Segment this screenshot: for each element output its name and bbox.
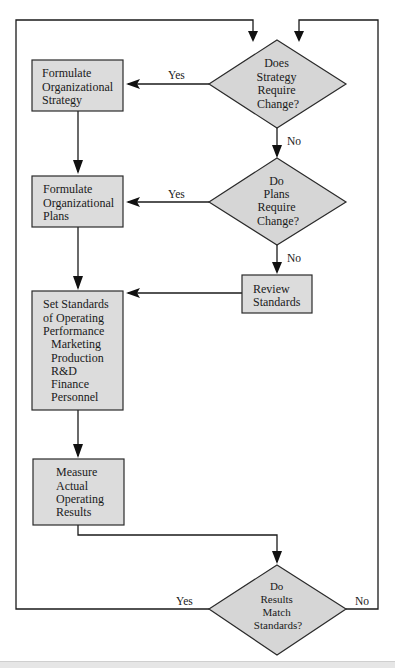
plans-to-standards-connector (73, 227, 83, 290)
plans-yes-label: Yes (168, 188, 185, 200)
plans-decision-diamond[interactable]: Do Plans Require Change? (209, 158, 346, 245)
results-decision-diamond[interactable]: Do Results Match Standards? (209, 565, 346, 655)
arrowhead-icon (272, 551, 282, 564)
box-text-line: Operating (56, 492, 104, 506)
diamond-text-line: Does (264, 56, 289, 70)
box-text-line: Organizational (42, 80, 114, 94)
page-bottom-divider (0, 661, 395, 668)
results-yes-label: Yes (176, 595, 193, 607)
box-text-line: Production (51, 351, 104, 365)
diamond-text-line: Change? (257, 214, 299, 228)
diamond-text-line: Standards? (254, 619, 302, 631)
strategy-yes-label: Yes (168, 69, 185, 81)
strategy-no-connector: No (272, 128, 301, 158)
arrowhead-icon (272, 262, 282, 274)
diamond-text-line: Change? (257, 97, 299, 111)
arrowhead-icon (294, 31, 304, 42)
diamond-text-line: Require (258, 83, 296, 97)
formulate-plans-box[interactable]: Formulate Organizational Plans (32, 176, 123, 227)
diamond-text-line: Do (270, 580, 284, 592)
box-text-line: Set Standards (43, 297, 109, 311)
set-standards-box[interactable]: Set Standards of Operating Performance M… (32, 291, 123, 410)
box-text-line: Formulate (43, 182, 92, 196)
diamond-text-line: Results (260, 593, 292, 605)
plans-yes-connector: Yes (126, 188, 209, 207)
box-text-line: Review (253, 282, 290, 296)
arrowhead-icon (272, 145, 282, 158)
arrowhead-icon (73, 444, 83, 458)
strategy-to-plans-connector (73, 111, 83, 174)
plans-no-connector: No (272, 245, 301, 274)
box-text-line: Plans (43, 209, 69, 223)
arrowhead-icon (73, 160, 83, 174)
box-text-line: Finance (51, 377, 89, 391)
box-text-line: Actual (56, 479, 89, 493)
box-text-line: Organizational (43, 196, 115, 210)
review-to-standards-connector (126, 288, 242, 298)
box-text-line: Marketing (51, 337, 101, 351)
strategy-yes-connector: Yes (126, 69, 209, 89)
review-standards-box[interactable]: Review Standards (242, 275, 312, 313)
standards-to-measure-connector (73, 410, 83, 458)
measure-results-box[interactable]: Measure Actual Operating Results (33, 459, 124, 525)
formulate-strategy-box[interactable]: Formulate Organizational Strategy (32, 60, 123, 111)
arrowhead-icon (73, 276, 83, 290)
box-text-line: R&D (51, 364, 77, 378)
diamond-text-line: Do (269, 174, 284, 188)
diamond-text-line: Strategy (257, 70, 297, 84)
box-text-line: Personnel (51, 390, 99, 404)
measure-to-results-connector (78, 525, 282, 564)
box-text-line: Formulate (42, 66, 91, 80)
box-text-line: Strategy (42, 93, 82, 107)
diamond-text-line: Match (263, 606, 292, 618)
diamond-text-line: Require (258, 200, 296, 214)
box-text-line: Performance (43, 324, 104, 338)
box-text-line: Standards (253, 295, 301, 309)
strategy-no-label: No (287, 135, 301, 147)
box-text-line: Results (56, 505, 92, 519)
box-text-line: Measure (56, 465, 97, 479)
results-no-label: No (355, 595, 369, 607)
plans-no-label: No (287, 252, 301, 264)
strategy-decision-diamond[interactable]: Does Strategy Require Change? (209, 40, 346, 128)
diamond-text-line: Plans (263, 187, 289, 201)
box-text-line: of Operating (43, 311, 104, 325)
arrowhead-icon (248, 31, 258, 42)
